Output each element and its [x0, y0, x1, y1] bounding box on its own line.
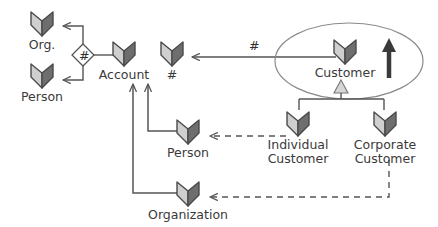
entity-label: Organization: [148, 208, 228, 222]
entity-chevron-icon: [159, 40, 185, 68]
diagram-canvas: Org. Person Account # Customer: [0, 0, 438, 227]
connector-person-to-account: [148, 84, 178, 131]
connector-organization-to-account: [133, 84, 178, 193]
entity-chevron-icon: [111, 40, 137, 68]
relation-hash-label: #: [249, 39, 259, 52]
emphasis-up-arrow: [382, 38, 396, 78]
entity-label: Corporate Customer: [354, 138, 417, 166]
entity-chevron-icon: [372, 110, 398, 138]
entity-chevron-icon: [29, 62, 55, 90]
entity-chevron-icon: [175, 118, 201, 146]
entity-chevron-icon: [285, 110, 311, 138]
entity-label: #: [167, 68, 177, 82]
connector-generalization-bar: [299, 93, 384, 110]
connector-diamond-to-org: [63, 26, 83, 44]
entity-label: Customer: [315, 66, 376, 80]
generalization-triangle: [334, 80, 348, 93]
entity-label: Individual Customer: [268, 138, 329, 166]
entity-chevron-icon: [332, 38, 358, 66]
connector-diamond-to-person: [63, 66, 83, 80]
entity-chevron-icon: [29, 10, 55, 38]
entity-label: Person: [21, 90, 63, 104]
entity-chevron-icon: [175, 180, 201, 208]
entity-label: Account: [99, 68, 149, 82]
entity-label: Org.: [29, 38, 56, 52]
diamond-hash-label: #: [79, 49, 89, 62]
entity-label: Person: [167, 146, 209, 160]
